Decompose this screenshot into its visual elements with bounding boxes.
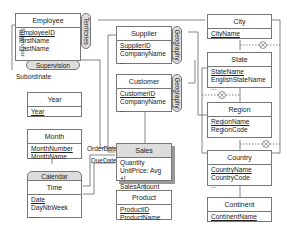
level-year[interactable]: Year Year	[27, 92, 82, 117]
attribute-key: MonthNumber	[31, 145, 78, 153]
level-country[interactable]: Country CountryName CountryCode ...	[207, 150, 272, 186]
level-month[interactable]: Month MonthNumber MonthName	[27, 129, 82, 159]
level-region[interactable]: Region RegionName RegionCode	[207, 102, 272, 138]
attribute: ProductName	[120, 214, 168, 222]
attribute: LastName	[19, 45, 77, 53]
level-title: City	[208, 15, 271, 29]
hierarchy-supervision[interactable]: Supervision	[26, 60, 80, 70]
hierarchy-territories[interactable]: Territories	[81, 13, 91, 49]
level-title: Region	[208, 103, 271, 117]
hierarchy-label: Supervision	[36, 62, 70, 69]
attribute-key: CountryName	[211, 166, 268, 174]
attribute: ...	[120, 58, 168, 66]
attribute: CompanyName	[120, 50, 168, 58]
attribute: ...	[120, 106, 168, 114]
attribute: FirstName	[19, 37, 77, 45]
attribute: CountryCode	[211, 174, 268, 182]
attribute-key: SupplierID	[120, 42, 168, 50]
level-title: State	[208, 53, 271, 67]
hierarchy-geography-supplier[interactable]: Geography	[172, 26, 182, 64]
attribute: ...	[31, 212, 78, 220]
attribute: MonthName	[31, 153, 78, 161]
attribute-key: RegionName	[211, 118, 268, 126]
attribute: ...	[211, 84, 268, 92]
attribute: ...	[211, 182, 268, 190]
attribute: RegionCode	[211, 126, 268, 134]
fact-sales[interactable]: Sales Quantity UnitPrice: Avg +! SalesAm…	[116, 143, 172, 181]
level-customer[interactable]: Customer CustomerID CompanyName ...	[116, 74, 172, 112]
attribute-key: CityName	[211, 30, 268, 38]
level-supplier[interactable]: Supplier SupplierID CompanyName ...	[116, 26, 172, 64]
level-title: Year	[28, 93, 81, 107]
attribute-key: StateName	[211, 68, 268, 76]
level-title: Employee	[16, 14, 80, 28]
level-title: Continent	[208, 198, 271, 212]
hierarchy-label: Geography	[174, 77, 181, 108]
measure: Quantity	[120, 159, 168, 167]
role-subordinate: Subordinate	[16, 73, 51, 80]
level-title: Product	[117, 191, 171, 205]
level-product[interactable]: Product ProductID ProductName	[116, 190, 172, 220]
attribute-key: ContinentName	[211, 213, 268, 221]
measure: UnitPrice: Avg +!	[120, 167, 168, 183]
role-due-date: DueDate	[91, 157, 117, 164]
hierarchy-label: Calendar	[41, 173, 67, 180]
level-title: Time	[28, 181, 81, 195]
hierarchy-label: Geography	[174, 29, 181, 60]
attribute-key: Date	[31, 196, 78, 204]
attribute: EnglishStateName	[211, 76, 268, 84]
level-state[interactable]: State StateName EnglishStateName ...	[207, 52, 272, 88]
level-title: Supplier	[117, 27, 171, 41]
role-supervisor: Supervisor	[20, 28, 26, 57]
attribute-key: Year	[31, 108, 78, 116]
attribute: DayNbWeek	[31, 204, 78, 212]
attribute: CompanyName	[120, 98, 168, 106]
level-title: Customer	[117, 75, 171, 89]
hierarchy-geography-customer[interactable]: Geography	[172, 74, 182, 112]
role-order-date: OrderDate	[87, 145, 117, 152]
level-title: Country	[208, 151, 271, 165]
attribute-key: CustomerID	[120, 90, 168, 98]
level-city[interactable]: City CityName	[207, 14, 272, 39]
attribute-key: EmployeeID	[19, 29, 77, 37]
hierarchy-label: Territories	[83, 17, 90, 45]
attribute-key: ProductID	[120, 206, 168, 214]
fact-title: Sales	[117, 144, 171, 158]
level-title: Month	[28, 130, 81, 144]
level-continent[interactable]: Continent ContinentName	[207, 197, 272, 222]
level-time[interactable]: Time Date DayNbWeek ...	[27, 180, 82, 218]
